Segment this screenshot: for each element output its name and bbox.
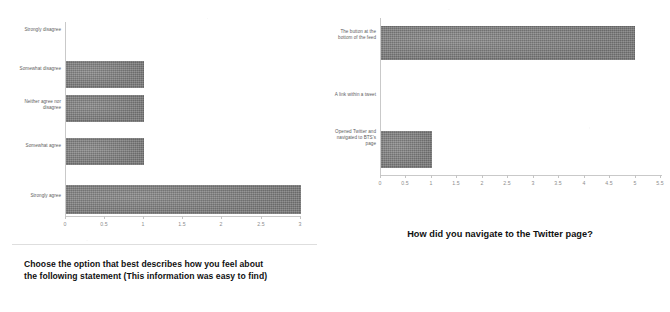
likert-plot-area: 0 0.5 1 1.5 2 2.5 3 Strongly disagree So… xyxy=(0,0,335,250)
navigation-x-tick-label: 4.5 xyxy=(600,180,618,186)
likert-x-tick-label: 2 xyxy=(211,221,231,227)
likert-x-tick xyxy=(182,216,183,219)
likert-figure-divider xyxy=(12,244,317,245)
likert-caption-line-2: the following statement (This informatio… xyxy=(24,270,314,282)
navigation-x-tick xyxy=(380,175,381,178)
likert-x-tick-label: 0.5 xyxy=(94,221,114,227)
likert-x-tick xyxy=(261,216,262,219)
navigation-x-tick-label: 3 xyxy=(524,180,542,186)
likert-caption-line-1: Choose the option that best describes ho… xyxy=(24,258,314,270)
navigation-x-tick xyxy=(533,175,534,178)
likert-category-label: Neither agree nor disagree xyxy=(8,99,61,111)
likert-x-tick-label: 2.5 xyxy=(251,221,271,227)
navigation-bar xyxy=(381,131,432,168)
navigation-x-tick xyxy=(507,175,508,178)
likert-x-tick xyxy=(143,216,144,219)
navigation-x-tick-label: 1.5 xyxy=(447,180,465,186)
navigation-category-label: A link within a tweet xyxy=(332,92,376,98)
navigation-x-tick xyxy=(609,175,610,178)
navigation-x-tick xyxy=(584,175,585,178)
likert-category-label: Strongly disagree xyxy=(8,27,61,33)
navigation-category-label: The button at the bottom of the feed xyxy=(332,29,376,41)
navigation-x-axis-line xyxy=(380,175,662,176)
likert-bar-chart-figure: 0 0.5 1 1.5 2 2.5 3 Strongly disagree So… xyxy=(0,0,335,250)
likert-category-label: Somewhat agree xyxy=(8,143,61,149)
likert-bar xyxy=(66,138,144,165)
likert-x-tick-label: 3 xyxy=(290,221,310,227)
likert-bar xyxy=(66,61,144,88)
likert-x-tick-label: 1.5 xyxy=(172,221,192,227)
navigation-plot-area: 0 0.5 1 1.5 2 2.5 3 3.5 4 4.5 5 5.5 The … xyxy=(330,0,670,200)
navigation-x-tick-label: 0 xyxy=(371,180,389,186)
likert-chart-caption: Choose the option that best describes ho… xyxy=(24,258,314,283)
navigation-chart-caption: How did you navigate to the Twitter page… xyxy=(360,228,640,240)
navigation-x-tick xyxy=(660,175,661,178)
navigation-x-tick-label: 2 xyxy=(473,180,491,186)
navigation-x-tick xyxy=(635,175,636,178)
likert-x-tick xyxy=(65,216,66,219)
likert-x-tick xyxy=(104,216,105,219)
navigation-x-tick xyxy=(405,175,406,178)
navigation-x-tick-label: 2.5 xyxy=(498,180,516,186)
navigation-x-tick xyxy=(558,175,559,178)
navigation-x-tick xyxy=(482,175,483,178)
navigation-x-tick-label: 3.5 xyxy=(549,180,567,186)
navigation-x-tick-label: 5.5 xyxy=(651,180,669,186)
navigation-x-tick xyxy=(431,175,432,178)
likert-bar xyxy=(66,185,301,214)
navigation-x-tick-label: 5 xyxy=(626,180,644,186)
navigation-x-tick-label: 4 xyxy=(575,180,593,186)
likert-category-label: Somewhat disagree xyxy=(8,66,61,72)
likert-bar xyxy=(66,95,144,122)
likert-x-tick-label: 1 xyxy=(133,221,153,227)
navigation-x-tick-label: 0.5 xyxy=(396,180,414,186)
likert-x-tick xyxy=(221,216,222,219)
likert-category-label: Strongly agree xyxy=(8,193,61,199)
navigation-category-label: Opened Twitter and navigated to BTS's pa… xyxy=(332,129,376,148)
navigation-x-tick-label: 1 xyxy=(422,180,440,186)
navigation-bar-chart-figure: 0 0.5 1 1.5 2 2.5 3 3.5 4 4.5 5 5.5 The … xyxy=(330,0,670,260)
likert-x-tick xyxy=(300,216,301,219)
navigation-x-tick xyxy=(456,175,457,178)
likert-x-tick-label: 0 xyxy=(55,221,75,227)
navigation-bar xyxy=(381,26,635,60)
